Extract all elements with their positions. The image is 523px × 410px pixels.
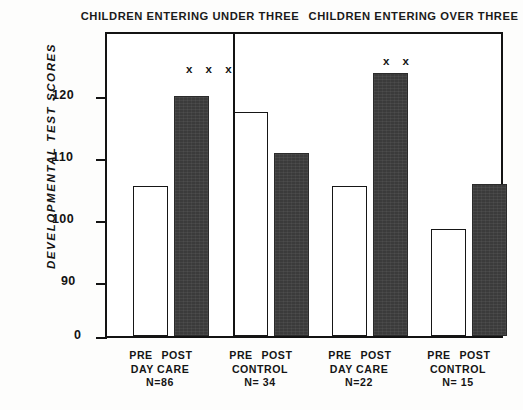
- x-group-name: DAY CARE: [112, 363, 208, 377]
- x-group-under-three-control: PREPOST CONTROL N= 34: [212, 349, 308, 390]
- bar-under-three-daycare-post: [174, 96, 209, 336]
- y-tick-label-0: 0: [74, 328, 81, 342]
- x-group-n: N= 15: [410, 376, 506, 390]
- y-tick-label-120: 120: [52, 88, 74, 102]
- x-group-over-three-daycare: PREPOST DAY CARE N=22: [311, 349, 407, 390]
- significance-marks-under-three: x x x: [186, 63, 237, 75]
- x-group-under-three-daycare: PREPOST DAY CARE N=86: [112, 349, 208, 390]
- bar-under-three-control-post: [274, 153, 309, 336]
- panel-heading-under-three: CHILDREN ENTERING UNDER THREE: [74, 10, 306, 22]
- x-label-post: POST: [456, 349, 494, 363]
- x-group-over-three-control: PREPOST CONTROL N= 15: [410, 349, 506, 390]
- panel-heading-over-three: CHILDREN ENTERING OVER THREE: [306, 10, 521, 22]
- bar-over-three-control-pre: [431, 229, 466, 336]
- y-tick-label-110: 110: [52, 150, 73, 164]
- x-label-post: POST: [158, 349, 196, 363]
- y-tick-label-90: 90: [61, 274, 76, 288]
- bar-under-three-control-pre: [233, 112, 268, 336]
- x-label-pre: PRE: [323, 349, 357, 363]
- x-group-n: N= 34: [212, 376, 308, 390]
- x-group-name: CONTROL: [410, 363, 506, 377]
- x-group-n: N=86: [112, 376, 208, 390]
- panel-divider: [233, 32, 235, 338]
- significance-marks-over-three: x x: [383, 55, 414, 67]
- plot-area: [105, 32, 503, 338]
- bar-chart-figure: CHILDREN ENTERING UNDER THREE CHILDREN E…: [0, 0, 523, 410]
- x-group-n: N=22: [311, 376, 407, 390]
- bar-under-three-daycare-pre: [133, 186, 168, 336]
- bar-over-three-control-post: [472, 184, 507, 336]
- x-group-name: DAY CARE: [311, 363, 407, 377]
- x-label-pre: PRE: [422, 349, 456, 363]
- x-label-post: POST: [357, 349, 395, 363]
- y-tick-label-100: 100: [52, 212, 74, 226]
- bar-over-three-daycare-post: [373, 73, 408, 336]
- x-label-post: POST: [258, 349, 296, 363]
- x-label-pre: PRE: [224, 349, 258, 363]
- x-group-name: CONTROL: [212, 363, 308, 377]
- x-label-pre: PRE: [124, 349, 158, 363]
- bar-over-three-daycare-pre: [332, 186, 367, 336]
